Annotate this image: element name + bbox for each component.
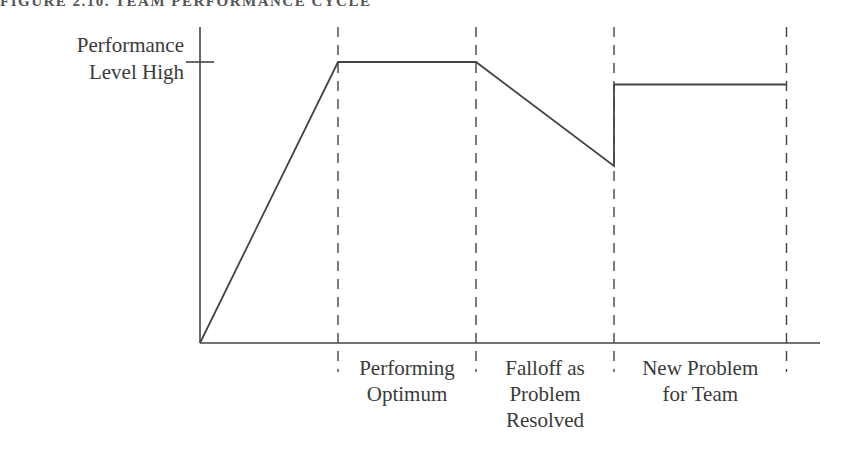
phase-label-line: New Problem bbox=[642, 356, 758, 380]
performance-cycle-chart: FIGURE 2.10. TEAM PERFORMANCE CYCLE Perf… bbox=[0, 0, 844, 452]
y-axis-label-line-1: Performance bbox=[77, 33, 184, 57]
phase-label-line: Falloff as bbox=[505, 356, 585, 380]
series-layer bbox=[200, 62, 787, 343]
phase-label-line: Performing bbox=[359, 356, 455, 380]
series-line bbox=[200, 62, 787, 343]
phase-labels: PerformingOptimumFalloff asProblemResolv… bbox=[359, 356, 758, 432]
phase-label-line: for Team bbox=[662, 382, 738, 406]
phase-label-2: Falloff asProblemResolved bbox=[505, 356, 585, 432]
y-axis-label-line-2: Level High bbox=[89, 60, 185, 84]
phase-label-line: Resolved bbox=[506, 408, 585, 432]
figure-title: FIGURE 2.10. TEAM PERFORMANCE CYCLE bbox=[0, 0, 371, 9]
phase-label-line: Problem bbox=[509, 382, 580, 406]
phase-label-3: New Problemfor Team bbox=[642, 356, 758, 406]
phase-boundaries bbox=[338, 27, 787, 372]
phase-label-1: PerformingOptimum bbox=[359, 356, 455, 406]
phase-label-line: Optimum bbox=[367, 382, 448, 406]
